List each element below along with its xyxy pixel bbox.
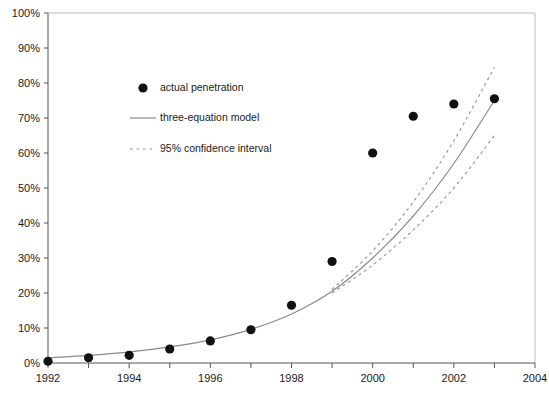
y-tick-label-30%: 30% <box>18 252 40 264</box>
x-tick-label-1996: 1996 <box>198 372 222 384</box>
y-tick-label-0%: 0% <box>24 357 40 369</box>
chart-background <box>0 0 549 394</box>
x-tick-label-2004: 2004 <box>523 372 547 384</box>
y-tick-label-40%: 40% <box>18 217 40 229</box>
y-tick-label-70%: 70% <box>18 112 40 124</box>
y-tick-label-60%: 60% <box>18 147 40 159</box>
y-tick-label-10%: 10% <box>18 322 40 334</box>
data-point <box>165 344 174 353</box>
penetration-chart: 0%10%20%30%40%50%60%70%80%90%100% 199219… <box>0 0 549 394</box>
data-point <box>327 257 336 266</box>
y-tick-label-20%: 20% <box>18 287 40 299</box>
legend-label-confidence-interval: 95% confidence interval <box>160 142 272 154</box>
y-tick-label-100%: 100% <box>12 7 40 19</box>
data-point <box>287 301 296 310</box>
data-point <box>125 351 134 360</box>
data-point <box>206 336 215 345</box>
x-tick-label-2000: 2000 <box>360 372 384 384</box>
x-tick-label-2002: 2002 <box>442 372 466 384</box>
chart-canvas: 0%10%20%30%40%50%60%70%80%90%100% 199219… <box>0 0 549 394</box>
data-point <box>449 99 458 108</box>
x-tick-label-1998: 1998 <box>279 372 303 384</box>
data-point <box>246 325 255 334</box>
legend-label-three-equation-model: three-equation model <box>160 111 259 123</box>
data-point <box>84 353 93 362</box>
data-point <box>43 357 52 366</box>
y-tick-label-80%: 80% <box>18 77 40 89</box>
legend-marker-actual-penetration-icon <box>138 83 147 92</box>
x-tick-label-1992: 1992 <box>36 372 60 384</box>
x-tick-label-1994: 1994 <box>117 372 141 384</box>
y-tick-label-50%: 50% <box>18 182 40 194</box>
y-tick-label-90%: 90% <box>18 42 40 54</box>
data-point <box>490 94 499 103</box>
legend-label-actual-penetration: actual penetration <box>160 81 244 93</box>
data-point <box>409 112 418 121</box>
data-point <box>368 148 377 157</box>
